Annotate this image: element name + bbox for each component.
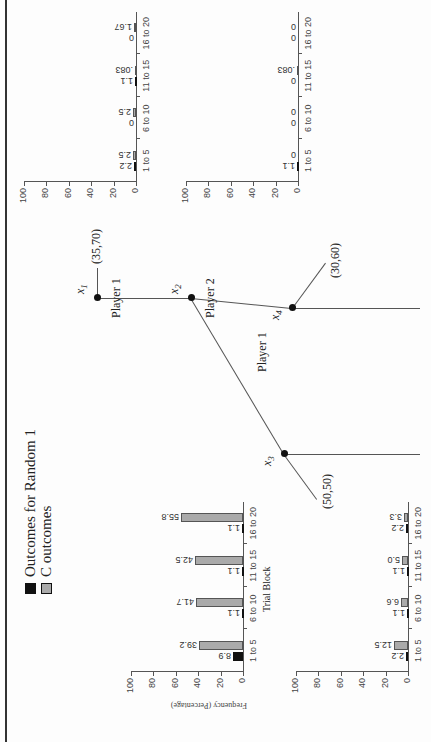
node-label-x: x: [167, 289, 181, 294]
node-label-x1: x1: [73, 284, 89, 294]
node-x1: [94, 295, 101, 302]
edge-x2-x3: [190, 298, 284, 455]
rotated-figure-page: Outcomes for Random 1 C outcomes 0204060…: [0, 0, 431, 742]
payoff-x3: (50,50): [320, 474, 335, 509]
node-label-sub: 1: [79, 284, 89, 289]
node-label-x: x: [73, 289, 87, 294]
node-x4: [289, 305, 296, 312]
node-label-x4: x4: [268, 310, 284, 320]
node-label-sub: 2: [173, 284, 183, 289]
player-label-bottom: Player 1: [255, 332, 270, 372]
player-label-x2: Player 2: [203, 278, 218, 318]
game-tree: x1x2x3x4Player 1Player 2Player 1(35,70)(…: [0, 0, 431, 742]
node-x2: [188, 295, 195, 302]
node-label-sub: 3: [266, 456, 276, 461]
player-label-x1: Player 1: [109, 278, 124, 318]
node-label-x2: x2: [167, 284, 183, 294]
node-label-sub: 4: [274, 310, 284, 315]
edge-x3-payoff: [283, 454, 317, 500]
payoff-x4: (30,60): [328, 243, 343, 278]
edge-x4-down: [292, 308, 420, 309]
node-label-x: x: [268, 315, 282, 320]
payoff-x1: (35,70): [89, 229, 104, 264]
edge-x3-down: [284, 454, 420, 455]
node-label-x3: x3: [260, 456, 276, 466]
node-label-x: x: [260, 461, 274, 466]
edge-x1-payoff: [97, 268, 98, 298]
edge-x4-payoff: [292, 263, 326, 309]
